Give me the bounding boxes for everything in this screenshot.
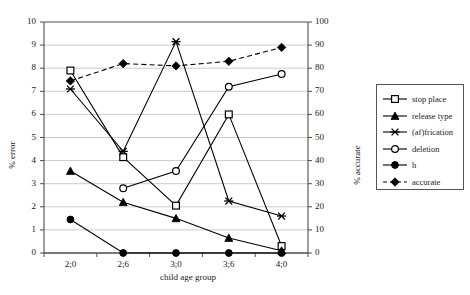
- legend-label: accurate: [412, 177, 440, 187]
- x-axis-tick: 2;0: [55, 259, 85, 269]
- data-point-marker: [119, 198, 127, 205]
- x-axis-tick: 3;0: [161, 259, 191, 269]
- data-point-marker: [120, 185, 127, 192]
- y-axis-right-tick: 0: [315, 247, 337, 257]
- data-point-marker: [392, 145, 399, 152]
- y-axis-left-title: % error: [7, 125, 17, 185]
- legend-marker-cross-x-icon: [381, 126, 409, 138]
- series-line: [70, 220, 281, 254]
- data-point-marker: [392, 162, 399, 169]
- legend-marker-filled-diamond-icon: [381, 176, 409, 188]
- data-point-marker: [120, 250, 127, 257]
- y-axis-right-title: % accurate: [352, 130, 362, 200]
- y-axis-right-tick: 20: [315, 201, 337, 211]
- y-axis-right-tick: 100: [315, 16, 337, 26]
- data-point-marker: [391, 177, 399, 185]
- legend-item-h[interactable]: h: [381, 157, 416, 173]
- x-axis-title: child age group: [128, 272, 248, 282]
- data-point-marker: [392, 96, 399, 103]
- legend-item-af-frication[interactable]: (af)frication: [381, 124, 453, 140]
- y-axis-left-tick: 5: [18, 132, 36, 142]
- data-point-marker: [119, 59, 127, 67]
- chart-figure: % error % accurate child age group 10987…: [0, 0, 470, 295]
- data-point-marker: [172, 62, 180, 70]
- y-axis-right-tick: 90: [315, 39, 337, 49]
- chart-legend: stop placerelease type(af)fricationdelet…: [376, 84, 464, 190]
- y-axis-left-tick: 10: [18, 16, 36, 26]
- legend-label: (af)frication: [412, 127, 453, 137]
- legend-item-stop-place[interactable]: stop place: [381, 91, 446, 107]
- y-axis-right-tick: 40: [315, 155, 337, 165]
- y-axis-left-tick: 0: [18, 247, 36, 257]
- x-axis-tick: 3;6: [214, 259, 244, 269]
- y-axis-right-tick: 80: [315, 62, 337, 72]
- y-axis-right-tick: 10: [315, 224, 337, 234]
- data-point-marker: [67, 67, 74, 74]
- data-point-marker: [278, 71, 285, 78]
- y-axis-right-tick: 60: [315, 108, 337, 118]
- data-point-marker: [173, 250, 180, 257]
- y-axis-left-tick: 3: [18, 178, 36, 188]
- legend-item-accurate[interactable]: accurate: [381, 174, 440, 190]
- data-point-marker: [120, 154, 127, 161]
- data-point-marker: [173, 168, 180, 175]
- legend-label: deletion: [412, 144, 439, 154]
- y-axis-left-tick: 9: [18, 39, 36, 49]
- legend-marker-filled-circle-icon: [381, 159, 409, 171]
- data-point-marker: [224, 198, 233, 205]
- legend-label: h: [412, 160, 416, 170]
- data-point-marker: [66, 167, 74, 174]
- y-axis-right-tick: 70: [315, 85, 337, 95]
- y-axis-left-tick: 8: [18, 62, 36, 72]
- y-axis-left-tick: 7: [18, 85, 36, 95]
- data-point-marker: [225, 234, 233, 241]
- data-point-marker: [225, 250, 232, 257]
- y-axis-left-tick: 6: [18, 108, 36, 118]
- data-point-marker: [277, 213, 286, 220]
- legend-item-release-type[interactable]: release type: [381, 108, 452, 124]
- data-point-marker: [278, 250, 285, 257]
- legend-marker-open-square-icon: [381, 93, 409, 105]
- data-point-marker: [173, 202, 180, 209]
- y-axis-left-tick: 1: [18, 224, 36, 234]
- legend-label: stop place: [412, 94, 446, 104]
- legend-marker-filled-triangle-icon: [381, 110, 409, 122]
- y-axis-left-tick: 2: [18, 201, 36, 211]
- y-axis-right-tick: 30: [315, 178, 337, 188]
- legend-item-deletion[interactable]: deletion: [381, 141, 439, 157]
- data-point-marker: [225, 83, 232, 90]
- y-axis-right-tick: 50: [315, 132, 337, 142]
- data-point-marker: [225, 111, 232, 118]
- legend-marker-open-circle-icon: [381, 143, 409, 155]
- data-point-marker: [66, 77, 74, 85]
- data-point-marker: [67, 216, 74, 223]
- y-axis-left-tick: 4: [18, 155, 36, 165]
- legend-label: release type: [412, 111, 452, 121]
- series-deletion: [120, 71, 285, 192]
- x-axis-tick: 4;0: [267, 259, 297, 269]
- series-accurate: [66, 43, 286, 85]
- series-line: [70, 171, 281, 251]
- data-point-marker: [171, 38, 180, 45]
- x-axis-tick: 2;6: [108, 259, 138, 269]
- series-release-type: [66, 167, 285, 254]
- data-point-marker: [225, 57, 233, 65]
- data-point-marker: [390, 129, 399, 136]
- data-point-marker: [277, 43, 285, 51]
